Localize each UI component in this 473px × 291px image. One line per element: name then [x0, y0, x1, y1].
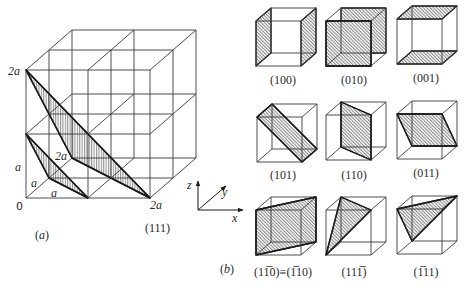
plane-101 [257, 104, 317, 162]
cube-bar111 [397, 196, 457, 254]
axis-label-z: z [186, 178, 192, 192]
panel-a-plane-label: (111) [145, 221, 170, 235]
panel-b-caption: (b) [220, 262, 234, 276]
plane-001-top [397, 6, 457, 19]
label-y-2a: 2a [55, 149, 67, 163]
cube-label: (11̅0)≡(1̅10) [254, 265, 312, 279]
miller-indices-figure: 2a a a a 2a 0 2a z y x (a) (111) (100) [0, 0, 473, 291]
label-origin: 0 [16, 200, 23, 213]
cube-label: (011) [413, 166, 439, 180]
cube-label: (100) [270, 73, 296, 87]
plane-100-right [301, 8, 316, 66]
cube-label: (010) [341, 73, 367, 87]
cube-1bar10 [256, 197, 316, 255]
cube-label: (110) [341, 168, 367, 182]
plane-1bar10 [256, 197, 316, 255]
cube-label: (111̅) [341, 265, 366, 279]
plane-110 [341, 102, 371, 160]
axis-label-y: y [221, 185, 228, 199]
plane-011 [397, 114, 457, 146]
panel-a-caption: (a) [35, 228, 49, 242]
panel-b: (100) (010) (001) (101) (110) [220, 6, 457, 279]
cube-100 [256, 8, 316, 66]
cube-label: (101) [270, 168, 296, 182]
label-x-2a: 2a [150, 198, 162, 212]
axes-triad: z y x [186, 178, 243, 225]
cube-label: (001) [413, 71, 439, 85]
panel-a: 2a a a a 2a 0 2a z y x (a) (111) [8, 30, 243, 242]
label-z-a: a [15, 160, 21, 174]
axis-label-x: x [231, 211, 238, 225]
label-z-2a: 2a [8, 64, 20, 78]
plane-11bar1 [326, 197, 371, 255]
plane-001-bottom [397, 51, 457, 64]
cube-110 [326, 102, 386, 160]
cube-001 [397, 6, 457, 64]
cube-101 [257, 104, 317, 162]
cube-010 [326, 8, 386, 66]
label-y-a: a [31, 176, 37, 190]
plane-100-left [256, 8, 271, 66]
cube-011 [397, 101, 457, 159]
label-x-a: a [51, 186, 57, 200]
cube-label: (1̅11) [413, 265, 438, 279]
cube-11bar1 [326, 197, 386, 255]
plane-010-front [326, 21, 371, 66]
